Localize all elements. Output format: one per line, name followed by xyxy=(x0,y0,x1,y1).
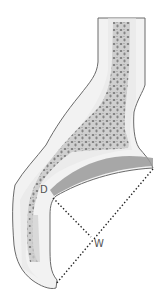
label-w: W xyxy=(94,238,104,249)
bone-diagram: D W xyxy=(0,0,166,295)
label-d: D xyxy=(40,184,48,195)
depth-measure-line xyxy=(53,198,91,237)
